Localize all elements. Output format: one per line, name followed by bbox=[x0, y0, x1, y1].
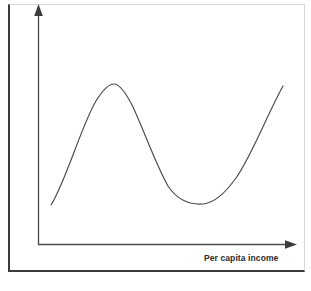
chart-figure: Income Inequality Per capita income bbox=[0, 0, 311, 291]
y-axis-arrow-icon bbox=[34, 4, 43, 16]
x-axis-label: Per capita income bbox=[204, 252, 278, 264]
income-inequality-curve bbox=[51, 84, 283, 205]
x-axis-arrow-icon bbox=[285, 240, 297, 249]
plot-area bbox=[0, 0, 311, 291]
